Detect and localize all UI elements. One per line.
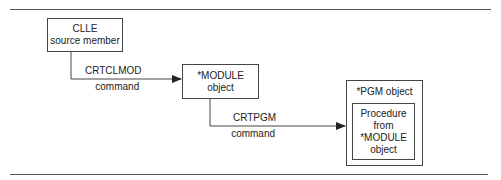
clle-source-member-box: CLLE source member [47, 18, 123, 52]
source-subtitle: source member [50, 35, 119, 47]
source-title: CLLE [72, 23, 97, 35]
crtclmod-label: CRTCLMOD command [85, 65, 141, 93]
module-object-box: *MODULE object [182, 64, 259, 99]
crtpgm-command-word: command [230, 128, 276, 140]
pgm-object-box: *PGM object Procedure from *MODULE objec… [346, 80, 423, 166]
crtclmod-command-word: command [85, 81, 141, 93]
pgm-title: *PGM object [347, 86, 422, 98]
procedure-line-3: *MODULE [360, 132, 407, 144]
module-subtitle: object [207, 82, 234, 94]
procedure-box: Procedure from *MODULE object [352, 103, 415, 160]
crtpgm-command-name: CRTPGM [230, 112, 276, 124]
procedure-line-1: Procedure [360, 108, 406, 120]
crtclmod-command-name: CRTCLMOD [85, 65, 141, 77]
module-title: *MODULE [197, 70, 244, 82]
procedure-line-4: object [370, 144, 397, 156]
crtpgm-label: CRTPGM command [230, 112, 276, 140]
procedure-line-2: from [374, 120, 394, 132]
